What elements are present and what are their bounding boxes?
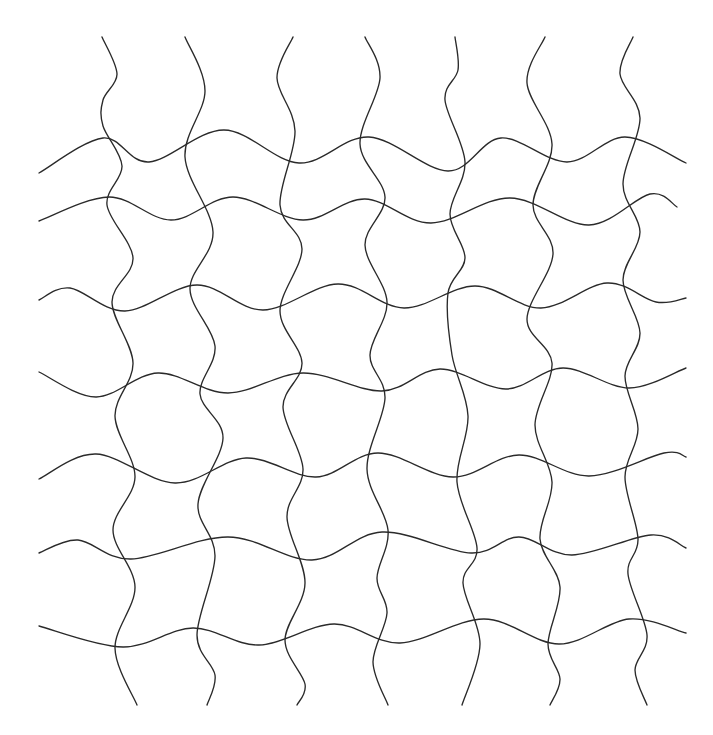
vertical-curve-1 <box>101 37 137 705</box>
vertical-curve-6 <box>527 37 560 705</box>
horizontal-curve-5 <box>39 452 686 483</box>
vertical-curve-3 <box>277 37 305 705</box>
wavy-grid-drawing <box>0 0 713 735</box>
horizontal-curve-1 <box>39 130 686 173</box>
horizontal-curve-2 <box>39 194 677 225</box>
horizontal-curve-3 <box>39 283 686 311</box>
horizontal-curve-7 <box>39 619 686 647</box>
vertical-curve-2 <box>185 37 223 705</box>
horizontal-curve-4 <box>39 368 686 397</box>
horizontal-curves <box>39 130 686 647</box>
horizontal-curve-6 <box>39 532 686 560</box>
vertical-curve-5 <box>445 37 480 705</box>
